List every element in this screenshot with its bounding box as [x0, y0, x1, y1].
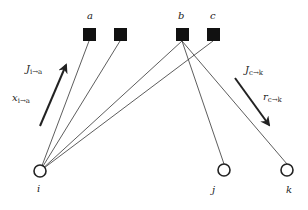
label-J-c-to-k: Jc→k — [243, 64, 264, 77]
label-b: b — [178, 10, 184, 21]
factor-node-b[interactable] — [176, 28, 189, 41]
edges — [40, 41, 287, 171]
factor-nodes — [83, 28, 220, 41]
variable-node-j[interactable] — [218, 164, 230, 176]
variable-node-i[interactable] — [34, 165, 46, 177]
label-i: i — [37, 183, 40, 194]
factor-graph: a b c i j k Ji→a xi→a Jc→k rc→k — [0, 0, 308, 210]
label-J-i-to-a: Ji→a — [24, 63, 42, 76]
label-a: a — [87, 10, 93, 21]
edge-i-b — [40, 41, 182, 171]
edge-i-f2 — [40, 41, 120, 171]
variable-node-k[interactable] — [281, 164, 293, 176]
edge-i-c — [40, 41, 213, 171]
message-arrow-i-to-a — [40, 65, 66, 126]
label-r-c-to-k: rc→k — [263, 91, 283, 104]
factor-node-a[interactable] — [83, 28, 96, 41]
edge-b-j — [182, 41, 224, 164]
label-k: k — [286, 184, 292, 195]
factor-node-2[interactable] — [114, 28, 127, 41]
variable-nodes — [34, 164, 293, 177]
label-x-i-to-a: xi→a — [12, 92, 30, 105]
label-j: j — [210, 184, 215, 195]
factor-node-c[interactable] — [207, 28, 220, 41]
edge-i-a — [40, 41, 89, 171]
label-c: c — [210, 10, 216, 21]
